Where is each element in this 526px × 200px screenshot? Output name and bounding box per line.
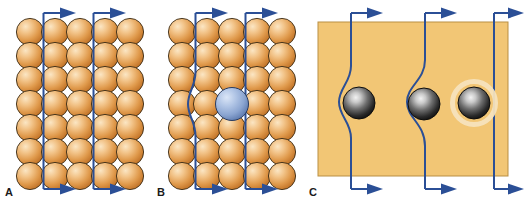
lattice-atom: [16, 66, 43, 93]
flux-arrow-bottom-icon: [367, 184, 383, 195]
lattice-atom: [16, 162, 43, 189]
flux-arrow-bottom-icon: [441, 184, 457, 195]
flux-arrow-top-icon: [508, 8, 524, 19]
lattice-atom: [268, 66, 295, 93]
lattice-atom: [41, 90, 68, 117]
lattice-atom: [116, 138, 143, 165]
flux-arrow-top-icon: [441, 8, 457, 19]
flux-arrow-top-icon: [110, 8, 126, 19]
lattice-atom: [66, 138, 93, 165]
lattice-atom: [91, 42, 118, 69]
lattice-atom: [41, 138, 68, 165]
lattice-atom: [91, 66, 118, 93]
panel-a: A: [0, 0, 160, 200]
lattice-atom: [243, 114, 270, 141]
lattice-atom: [168, 138, 195, 165]
lattice-atom: [168, 90, 195, 117]
pinning-particle: [343, 87, 375, 119]
lattice-atom: [193, 138, 220, 165]
lattice-atom: [268, 114, 295, 141]
flux-pinning-figure: A: [0, 0, 526, 200]
panel-c: C: [305, 0, 526, 200]
flux-arrow-bottom-icon: [508, 184, 524, 195]
lattice-atom: [116, 90, 143, 117]
lattice-atom: [193, 42, 220, 69]
panel-label-c: C: [309, 187, 317, 198]
panel-label-a: A: [5, 187, 13, 198]
lattice-atom: [168, 162, 195, 189]
lattice-atom: [66, 114, 93, 141]
flux-arrow-top-icon: [212, 8, 228, 19]
lattice-atom: [66, 162, 93, 189]
lattice-atom: [218, 42, 245, 69]
lattice-atom: [268, 18, 295, 45]
lattice-atom: [91, 138, 118, 165]
lattice-atom: [66, 90, 93, 117]
lattice-atom: [16, 18, 43, 45]
lattice-atom: [91, 18, 118, 45]
lattice-atom: [243, 42, 270, 69]
flux-arrow-top-icon: [60, 8, 76, 19]
lattice-atom: [66, 66, 93, 93]
lattice-atom: [116, 66, 143, 93]
lattice-atom: [91, 114, 118, 141]
lattice-atom: [16, 42, 43, 69]
lattice-atom: [41, 66, 68, 93]
lattice-atom: [16, 138, 43, 165]
flux-arrow-top-icon: [367, 8, 383, 19]
lattice-atom: [218, 162, 245, 189]
lattice-atom: [218, 18, 245, 45]
lattice-atom: [268, 162, 295, 189]
lattice-atom: [168, 18, 195, 45]
lattice-atom: [116, 42, 143, 69]
lattice-atom: [41, 18, 68, 45]
lattice-atom: [41, 114, 68, 141]
lattice-atom: [116, 114, 143, 141]
lattice-atom: [66, 42, 93, 69]
impurity-atom: [216, 88, 249, 121]
lattice-atom: [243, 66, 270, 93]
lattice-atom: [268, 42, 295, 69]
lattice-atom: [16, 114, 43, 141]
panel-b: B: [152, 0, 312, 200]
lattice-atom: [268, 138, 295, 165]
lattice-atom: [193, 18, 220, 45]
lattice-atom: [243, 138, 270, 165]
lattice-atom: [41, 42, 68, 69]
lattice-atom: [268, 90, 295, 117]
lattice-atom: [218, 138, 245, 165]
lattice-atom: [116, 162, 143, 189]
lattice-atom: [116, 18, 143, 45]
flux-arrow-top-icon: [262, 8, 278, 19]
lattice-atom: [66, 18, 93, 45]
lattice-atom: [168, 42, 195, 69]
lattice-atom: [193, 114, 220, 141]
lattice-atom: [91, 90, 118, 117]
panel-label-b: B: [157, 187, 165, 198]
pinning-particle: [458, 87, 490, 119]
atom-lattice-a: [16, 18, 143, 189]
lattice-atom: [193, 66, 220, 93]
lattice-atom: [243, 18, 270, 45]
pinning-particle: [408, 88, 440, 120]
lattice-atom: [16, 90, 43, 117]
